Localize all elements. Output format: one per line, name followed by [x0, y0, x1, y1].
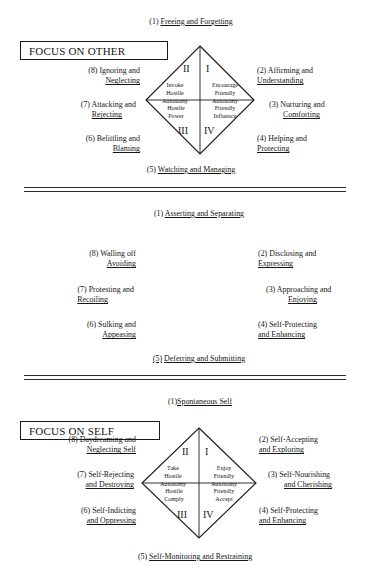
pole-label-right-bottom: (4) Self-Protecting and Enhancing — [258, 320, 380, 341]
pole-label-left-bottom: (6) Belittling and Blaming — [18, 134, 140, 155]
pole-label-top: (1) Freeing and Forgetting — [101, 17, 281, 27]
pole-number: (3) — [266, 285, 275, 294]
pole-number: (1) — [168, 397, 177, 406]
pole-line2: Comforting — [283, 110, 320, 119]
pole-line2: Blaming — [113, 144, 140, 153]
pole-number: (3) — [268, 470, 277, 479]
pole-label-left-middle: (7) Protesting and Recoiling — [6, 285, 134, 306]
pole-label-right-bottom: (4) Self-Protecting and Enhancing — [259, 506, 381, 527]
quadrant-numeral-I: I — [206, 64, 209, 74]
pole-line1: Helping and — [268, 134, 307, 143]
pole-label-left-top: (8) Walling off Avoiding — [14, 249, 136, 270]
pole-label-right-top: (2) Affirming and Understanding — [257, 66, 379, 87]
pole-label-bottom: (5) Watching and Managing — [101, 165, 281, 175]
pole-line2: and Enhancing — [259, 516, 306, 525]
pole-label-left-top: (8) Ignoring and Neglecting — [18, 66, 140, 87]
pole-label-top: (1) Asserting and Separating — [109, 209, 289, 219]
pole-line2: and Destroying — [86, 480, 134, 489]
pole-text: Asserting and Separating — [165, 209, 244, 218]
pole-label-bottom: (5) Deferring and Submitting — [109, 354, 289, 364]
pole-line1: Sulking and — [98, 320, 136, 329]
pole-number: (5) — [138, 552, 147, 561]
pole-line1: Belittling and — [97, 134, 140, 143]
pole-text: Spontaneous Self — [177, 397, 232, 406]
pole-number: (1) — [149, 17, 158, 26]
pole-line2: Protecting — [257, 144, 289, 153]
section-focus-on-self: (1) Asserting and Separating (2) Disclos… — [0, 190, 382, 377]
quadrant-text-I: EncourageFriendlyAutonomy — [201, 81, 249, 105]
pole-label-right-middle: (3) Approaching and Enjoying — [266, 285, 380, 306]
pole-line1: Disclosing and — [269, 249, 316, 258]
pole-number: (1) — [154, 209, 163, 218]
pole-line2: Avoiding — [107, 259, 136, 268]
pole-line2: Recoiling — [77, 295, 108, 304]
pole-number: (8) — [69, 435, 78, 444]
pole-label-right-bottom: (4) Helping and Protecting — [257, 134, 379, 155]
pole-label-right-middle: (3) Self-Nourishing and Cherishing — [268, 470, 382, 491]
pole-number: (2) — [257, 66, 266, 75]
pole-line2: Expressing — [258, 259, 293, 268]
section-focus-on-other: (1) Freeing and Forgetting (2) Affirming… — [0, 0, 382, 190]
pole-line2: and Cherishing — [284, 480, 332, 489]
pole-label-bottom: (5) Self-Monitoring and Restraining — [90, 552, 300, 562]
diamond-focus-on-other: II I III IV InvokeHostileAutonomy Encour… — [146, 46, 254, 154]
pole-number: (2) — [258, 249, 267, 258]
pole-number: (6) — [81, 506, 90, 515]
pole-line2: Enjoying — [288, 295, 317, 304]
pole-label-left-bottom: (6) Self-Indicting and Oppressing — [8, 506, 136, 527]
pole-label-left-middle: (7) Attacking and Rejecting — [8, 100, 136, 121]
pole-line1: Nurturing and — [280, 100, 325, 109]
pole-number: (4) — [259, 506, 268, 515]
pole-line1: Self-Nourishing — [279, 470, 330, 479]
pole-line1: Attacking and — [92, 100, 136, 109]
pole-line1: Ignoring and — [99, 66, 140, 75]
pole-number: (3) — [269, 100, 278, 109]
pole-number: (6) — [86, 134, 95, 143]
pole-number: (7) — [77, 470, 86, 479]
pole-line2: Understanding — [257, 76, 303, 85]
pole-number: (5) — [153, 354, 162, 363]
pole-text: Watching and Managing — [158, 165, 235, 174]
pole-line1: Affirming and — [268, 66, 313, 75]
pole-line1: Self-Rejecting — [88, 470, 134, 479]
pole-number: (7) — [77, 285, 86, 294]
pole-text: Self-Monitoring and Restraining — [149, 552, 252, 561]
quadrant-numeral-II: II — [183, 64, 190, 74]
section-header-label: FOCUS ON OTHER — [29, 45, 125, 57]
pole-line2: and Oppressing — [87, 516, 136, 525]
pole-line2: and Enhancing — [258, 330, 305, 339]
pole-number: (7) — [81, 100, 90, 109]
pole-text: Deferring and Submitting — [164, 354, 245, 363]
quadrant-numeral-III: III — [178, 126, 188, 136]
pole-line1: Walling off — [100, 249, 136, 258]
pole-label-right-top: (2) Self-Accepting and Exploring — [259, 435, 381, 456]
pole-number: (6) — [87, 320, 96, 329]
pole-line2: Appeasing — [102, 330, 136, 339]
pole-line1: Self-Protecting — [270, 506, 318, 515]
pole-number: (8) — [89, 249, 98, 258]
section-introject: (1)Spontaneous Self (2) Self-Accepting a… — [0, 377, 382, 577]
pole-text: Freeing and Forgetting — [161, 17, 233, 26]
pole-line1: Self-Protecting — [269, 320, 317, 329]
pole-line1: Daydreaming and — [80, 435, 136, 444]
pole-number: (5) — [147, 165, 156, 174]
quadrant-numeral-IV: IV — [204, 126, 215, 136]
pole-label-right-middle: (3) Nurturing and Comforting — [269, 100, 379, 121]
pole-line1: Self-Indicting — [92, 506, 136, 515]
pole-label-left-bottom: (6) Sulking and Appeasing — [14, 320, 136, 341]
pole-label-top: (1)Spontaneous Self — [110, 397, 290, 407]
pole-number: (8) — [88, 66, 97, 75]
pole-number: (4) — [258, 320, 267, 329]
quadrant-text-IV: FriendlyInfluence — [203, 104, 247, 120]
pole-line2: Rejecting — [92, 110, 122, 119]
pole-line1: Protesting and — [89, 285, 134, 294]
pole-label-left-top: (8) Daydreaming and Neglecting Self — [8, 435, 136, 456]
quadrant-text-II: InvokeHostileAutonomy — [153, 81, 197, 105]
pole-label-right-top: (2) Disclosing and Expressing — [258, 249, 380, 270]
pole-line1: Self-Accepting — [270, 435, 318, 444]
pole-number: (4) — [257, 134, 266, 143]
pole-line2: Neglecting — [105, 76, 140, 85]
pole-line2: and Exploring — [259, 445, 304, 454]
pole-line1: Approaching and — [277, 285, 332, 294]
quadrant-text-III: HostilePower — [155, 104, 197, 120]
